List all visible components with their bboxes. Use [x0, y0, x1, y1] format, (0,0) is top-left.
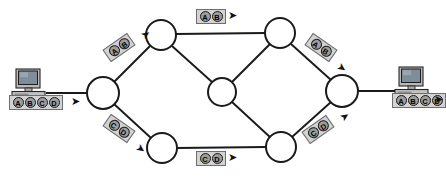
- packet-cell-c: C: [200, 153, 211, 164]
- arrow-icon-pkt-bottom: ➤: [228, 152, 237, 163]
- packet-label-ab-top: AB: [196, 9, 226, 24]
- packet-cell-a: A: [200, 11, 211, 22]
- arrow-icon-pkt-top: ➤: [228, 10, 237, 21]
- packet-cell-a: A: [396, 95, 407, 106]
- packet-cell-c: C: [37, 97, 48, 108]
- packet-cell-b: B: [25, 97, 36, 108]
- packet-cell-c: C: [420, 95, 431, 106]
- packet-cell-b: B: [212, 11, 223, 22]
- packet-cell-a: A: [13, 97, 24, 108]
- packet-label-cd-bottom: CD: [196, 151, 226, 166]
- host-packet-label-source-host: ABCD: [9, 95, 63, 110]
- packet-cell-b: B: [408, 95, 419, 106]
- packet-cell-d: D: [212, 153, 223, 164]
- arrow-icon-source-host: ➤: [71, 96, 80, 107]
- packet-cell-d: D: [49, 97, 60, 108]
- arrow-icon-destination-host: ➤: [434, 94, 443, 105]
